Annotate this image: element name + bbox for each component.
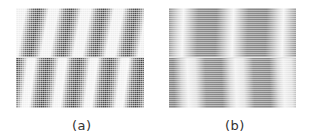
panel-b-caption: (b) (225, 118, 245, 133)
panel-a-lower-half (16, 58, 144, 108)
panel-b-image (169, 8, 296, 108)
panel-b-lower-half (169, 58, 296, 108)
panel-a-caption: (a) (72, 118, 92, 133)
panel-a-image (16, 8, 144, 108)
panel-b-upper-half (169, 8, 296, 57)
panel-a-upper-half (16, 8, 144, 57)
